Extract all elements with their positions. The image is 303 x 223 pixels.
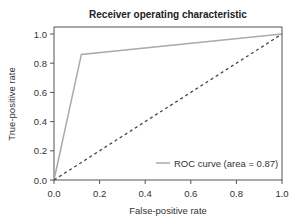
y-tick-label: 0.2 [34,145,47,156]
x-tick-label: 0.0 [47,188,60,199]
chart-title: Receiver operating characteristic [89,9,247,20]
roc-chart: Receiver operating characteristic 0.00.2… [0,0,303,223]
x-tick-label: 0.2 [93,188,106,199]
x-tick-label: 0.4 [139,188,152,199]
y-tick-label: 0.6 [34,87,47,98]
y-axis-label: True-positive rate [6,67,17,141]
y-axis: 0.00.20.40.60.81.0 [34,29,54,186]
y-tick-label: 0.8 [34,58,47,69]
y-tick-label: 0.0 [34,175,47,186]
legend: ROC curve (area = 0.87) [156,158,278,169]
x-tick-label: 1.0 [275,188,288,199]
x-tick-label: 0.8 [230,188,243,199]
x-axis-label: False-positive rate [129,205,207,216]
x-tick-label: 0.6 [184,188,197,199]
y-tick-label: 0.4 [34,116,47,127]
legend-label: ROC curve (area = 0.87) [174,158,278,169]
x-axis: 0.00.20.40.60.81.0 [47,180,288,199]
y-tick-label: 1.0 [34,29,47,40]
